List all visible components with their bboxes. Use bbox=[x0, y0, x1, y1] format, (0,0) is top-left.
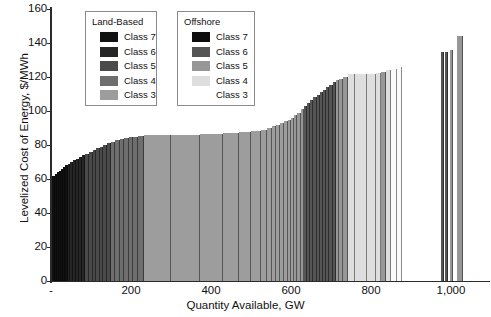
bar bbox=[223, 133, 239, 281]
legend-offshore-item-row: Class 5 bbox=[183, 59, 249, 74]
legend-land-based-item-row: Class 3 bbox=[91, 88, 151, 103]
bar bbox=[251, 131, 261, 281]
x-axis-line bbox=[50, 281, 490, 282]
legend-offshore-item-swatch bbox=[192, 47, 210, 57]
legend-land-based-item-swatch bbox=[100, 76, 118, 86]
bar bbox=[239, 132, 251, 281]
bar bbox=[144, 135, 171, 281]
bar bbox=[367, 74, 376, 281]
legend-land-based-item-row: Class 4 bbox=[91, 74, 151, 89]
legend-offshore-item-label: Class 5 bbox=[216, 61, 248, 71]
legend-offshore-item-row: Class 7 bbox=[183, 30, 249, 45]
legend-offshore-item-swatch bbox=[192, 32, 210, 42]
legend-land-based-items: Class 7Class 6Class 5Class 4Class 3 bbox=[91, 30, 151, 103]
legend-offshore-item-swatch bbox=[192, 61, 210, 71]
legend-offshore-item-swatch bbox=[192, 90, 210, 100]
y-tick-label: 160 bbox=[3, 3, 47, 15]
x-tick-label: 400 bbox=[201, 284, 220, 297]
legend-land-based-item-row: Class 5 bbox=[91, 59, 151, 74]
legend-offshore-item-label: Class 3 bbox=[216, 90, 248, 100]
legend-land-based-item-label: Class 6 bbox=[124, 47, 156, 57]
legend-land-based-item-row: Class 7 bbox=[91, 30, 151, 45]
x-tick-label: 800 bbox=[361, 284, 380, 297]
legend-land-based-item-swatch bbox=[100, 47, 118, 57]
x-tick-label: 600 bbox=[281, 284, 300, 297]
legend-offshore-item-label: Class 7 bbox=[216, 32, 248, 42]
legend-offshore: Offshore Class 7Class 6Class 5Class 4Cla… bbox=[177, 11, 255, 106]
legend-offshore-item-swatch bbox=[192, 76, 210, 86]
bar bbox=[441, 52, 444, 282]
legend-offshore-item-row: Class 3 bbox=[183, 88, 249, 103]
legend-land-based-item-label: Class 3 bbox=[124, 90, 156, 100]
chart-figure: 020406080100120140160 -2004006008001,000… bbox=[0, 0, 491, 317]
legend-land-based: Land-Based Class 7Class 6Class 5Class 4C… bbox=[85, 11, 157, 106]
legend-land-based-item-swatch bbox=[100, 90, 118, 100]
legend-offshore-item-row: Class 6 bbox=[183, 45, 249, 60]
bar bbox=[171, 135, 200, 281]
y-axis-title: Levelized Cost of Energy, $/MWh bbox=[18, 18, 30, 258]
legend-offshore-item-label: Class 4 bbox=[216, 76, 248, 86]
bar bbox=[397, 67, 402, 281]
bar bbox=[450, 50, 453, 281]
legend-land-based-item-label: Class 5 bbox=[124, 61, 156, 71]
bar bbox=[445, 52, 448, 282]
legend-land-based-item-swatch bbox=[100, 32, 118, 42]
legend-land-based-item-row: Class 6 bbox=[91, 45, 151, 60]
x-tick-label: - bbox=[49, 284, 53, 297]
legend-offshore-item-row: Class 4 bbox=[183, 74, 249, 89]
x-axis-title: Quantity Available, GW bbox=[0, 299, 491, 311]
legend-land-based-item-label: Class 7 bbox=[124, 32, 156, 42]
legend-offshore-title: Offshore bbox=[184, 16, 249, 27]
legend-land-based-item-swatch bbox=[100, 61, 118, 71]
bar bbox=[457, 36, 463, 281]
x-tick-label: 200 bbox=[121, 284, 140, 297]
bar bbox=[200, 134, 223, 281]
bar bbox=[348, 74, 355, 281]
legend-land-based-item-label: Class 4 bbox=[124, 76, 156, 86]
x-tick-label: 1,000 bbox=[437, 284, 466, 297]
legend-offshore-item-label: Class 6 bbox=[216, 47, 248, 57]
legend-offshore-items: Class 7Class 6Class 5Class 4Class 3 bbox=[183, 30, 249, 103]
bar bbox=[355, 74, 367, 281]
legend-land-based-title: Land-Based bbox=[92, 16, 151, 27]
